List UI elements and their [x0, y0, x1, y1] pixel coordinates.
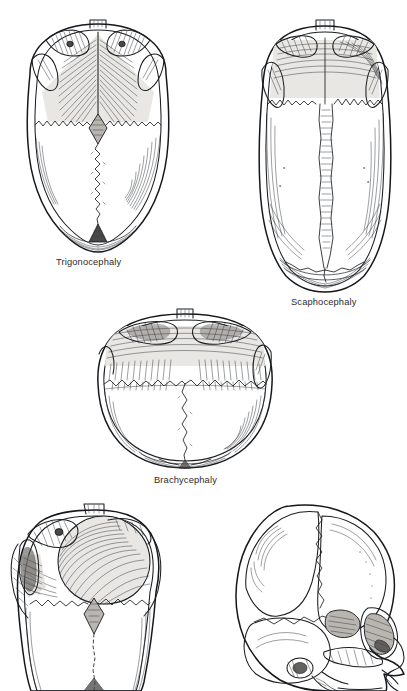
- figure-trigonocephaly: [8, 18, 188, 258]
- illustration-plate: Trigonocephaly: [0, 0, 407, 691]
- figure-scaphocephaly: [244, 18, 406, 296]
- caption-trigonocephaly: Trigonocephaly: [56, 257, 121, 268]
- figure-brachycephaly: [93, 308, 277, 471]
- figure-plagiocephaly: [0, 500, 200, 691]
- caption-scaphocephaly: Scaphocephaly: [291, 297, 357, 308]
- figure-lateral-oblique-skull: [228, 500, 407, 691]
- caption-brachycephaly: Brachycephaly: [154, 475, 217, 486]
